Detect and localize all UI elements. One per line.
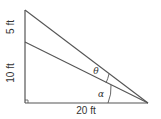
label-20ft: 20 ft [76,105,96,116]
lower-hypotenuse [25,42,148,103]
label-5ft: 5 ft [5,20,16,34]
theta-label: θ [93,66,99,76]
label-10ft: 10 ft [5,63,16,83]
triangle-diagram: 5 ft 10 ft 20 ft θ α [0,0,161,119]
upper-hypotenuse [25,10,148,103]
theta-arc [106,74,109,83]
alpha-arc [108,85,111,103]
alpha-label: α [98,89,104,99]
